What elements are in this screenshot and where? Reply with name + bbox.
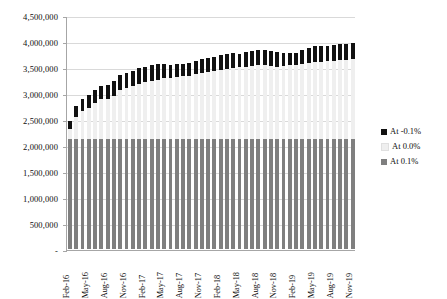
bar[interactable]: [162, 17, 166, 249]
bar[interactable]: [282, 17, 286, 249]
bar-segment-at-0-1: [275, 139, 279, 249]
bar-segment-at-0-0: [112, 96, 116, 139]
bar[interactable]: [250, 17, 254, 249]
bar[interactable]: [307, 17, 311, 249]
bar-segment-at-0-0: [87, 108, 91, 139]
bar-segment-at-0-0: [169, 78, 173, 139]
bar[interactable]: [338, 17, 342, 249]
bar[interactable]: [225, 17, 229, 249]
bar-segment-at-0-1: [326, 139, 330, 249]
bar[interactable]: [81, 17, 85, 249]
bar-segment-at-0-1: [250, 139, 254, 249]
bar[interactable]: [112, 17, 116, 249]
bar[interactable]: [300, 17, 304, 249]
bar-segment-at-0-1: [282, 139, 286, 249]
legend-item[interactable]: At 0.1%: [381, 154, 447, 169]
bar[interactable]: [74, 17, 78, 249]
bar[interactable]: [206, 17, 210, 249]
y-axis-tick: [63, 43, 67, 44]
x-axis-tick-label: Aug-17: [176, 273, 184, 298]
x-axis-tick-label: Nov-17: [195, 273, 203, 298]
bar[interactable]: [200, 17, 204, 249]
bar[interactable]: [87, 17, 91, 249]
bar-segment-at-0-0: [143, 82, 147, 139]
bar[interactable]: [319, 17, 323, 249]
bar-segment-at-0-0: [231, 68, 235, 139]
bar-segment-at-0-1: [288, 139, 292, 249]
bar-segment-at-0-0: [194, 74, 198, 138]
bar[interactable]: [294, 17, 298, 249]
bar-segment-at-neg-0-1: [162, 64, 166, 79]
bar[interactable]: [187, 17, 191, 249]
bar-segment-at-neg-0-1: [338, 44, 342, 60]
bar[interactable]: [326, 17, 330, 249]
bar[interactable]: [150, 17, 154, 249]
bar-segment-at-0-1: [143, 139, 147, 249]
bar-segment-at-0-0: [106, 99, 110, 139]
bar-segment-at-0-1: [200, 139, 204, 249]
bar[interactable]: [231, 17, 235, 249]
bar-segment-at-0-0: [81, 111, 85, 139]
bar[interactable]: [194, 17, 198, 249]
bar-segment-at-0-0: [300, 64, 304, 138]
bar-segment-at-0-1: [87, 139, 91, 249]
bar[interactable]: [143, 17, 147, 249]
bar[interactable]: [93, 17, 97, 249]
bar-segment-at-neg-0-1: [231, 53, 235, 68]
bar[interactable]: [219, 17, 223, 249]
bar[interactable]: [169, 17, 173, 249]
bar-segment-at-0-0: [351, 59, 355, 139]
bar-segment-at-0-0: [93, 103, 97, 139]
bar-segment-at-neg-0-1: [156, 64, 160, 80]
bar-segment-at-0-1: [125, 139, 129, 249]
bar-segment-at-neg-0-1: [200, 59, 204, 73]
bar-segment-at-0-0: [244, 67, 248, 139]
bar[interactable]: [332, 17, 336, 249]
bar-segment-at-neg-0-1: [137, 68, 141, 84]
bar[interactable]: [351, 17, 355, 249]
bar[interactable]: [156, 17, 160, 249]
bar[interactable]: [275, 17, 279, 249]
bar-segment-at-0-0: [225, 69, 229, 139]
bar[interactable]: [263, 17, 267, 249]
bar[interactable]: [244, 17, 248, 249]
bar-segment-at-0-1: [338, 139, 342, 249]
bar-segment-at-0-0: [307, 63, 311, 138]
y-axis-tick-label: 2,000,000: [23, 143, 58, 152]
bar[interactable]: [288, 17, 292, 249]
bar-segment-at-neg-0-1: [74, 106, 78, 117]
legend-item[interactable]: At -0.1%: [381, 124, 447, 139]
y-axis-tick-label: 1,500,000: [23, 169, 58, 178]
bar[interactable]: [118, 17, 122, 249]
bar[interactable]: [181, 17, 185, 249]
bar[interactable]: [137, 17, 141, 249]
bar-segment-at-0-1: [181, 139, 185, 249]
legend-item[interactable]: At 0.0%: [381, 139, 447, 154]
x-axis-tick-label: Nov-18: [270, 273, 278, 298]
bar-segment-at-0-1: [256, 139, 260, 249]
y-axis-tick-label: 500,000: [30, 221, 58, 230]
bar[interactable]: [131, 17, 135, 249]
bar-segment-at-0-0: [206, 72, 210, 139]
bar[interactable]: [344, 17, 348, 249]
y-axis-tick: [63, 69, 67, 70]
bar[interactable]: [175, 17, 179, 249]
bar[interactable]: [106, 17, 110, 249]
bar-segment-at-neg-0-1: [263, 50, 267, 65]
bar[interactable]: [99, 17, 103, 249]
bar[interactable]: [313, 17, 317, 249]
x-axis-tick-label: May-18: [232, 272, 240, 298]
bar[interactable]: [238, 17, 242, 249]
bar-segment-at-neg-0-1: [269, 51, 273, 66]
bar-segment-at-neg-0-1: [275, 52, 279, 66]
bar-segment-at-neg-0-1: [93, 90, 97, 103]
bar[interactable]: [125, 17, 129, 249]
x-axis-tick-label: Feb-18: [214, 274, 222, 298]
bar[interactable]: [212, 17, 216, 249]
bar[interactable]: [68, 17, 72, 249]
bar-segment-at-0-1: [162, 139, 166, 249]
bar-segment-at-0-0: [175, 77, 179, 139]
bar[interactable]: [256, 17, 260, 249]
y-axis-tick: [63, 95, 67, 96]
bar[interactable]: [269, 17, 273, 249]
